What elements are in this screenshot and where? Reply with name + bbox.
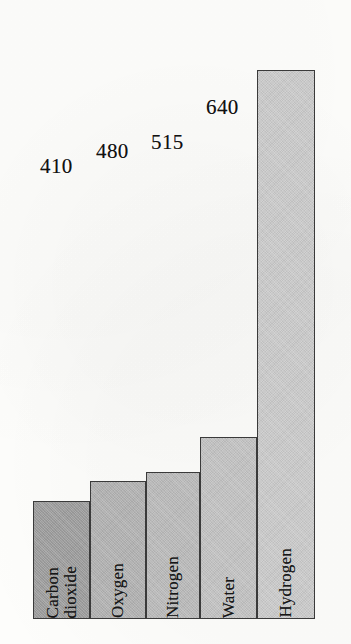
bar-value-label-oxygen: 480 (96, 141, 129, 162)
bar-value-label-nitrogen: 515 (151, 132, 184, 153)
chart-plot-area: 410 Carbon dioxide 480 Oxygen 515 Nitrog… (33, 62, 315, 619)
bar-category-label-nitrogen: Nitrogen (164, 547, 182, 618)
bar-oxygen[interactable]: Oxygen (90, 481, 146, 619)
bar-group-oxygen: 480 Oxygen (90, 62, 146, 619)
bar-group-carbon-dioxide: 410 Carbon dioxide (33, 62, 90, 619)
bar-group-hydrogen: 1930 Hydrogen (257, 62, 315, 619)
bar-carbon-dioxide[interactable]: Carbon dioxide (33, 501, 90, 619)
bar-category-label-water: Water (220, 568, 238, 618)
bar-hydrogen[interactable]: Hydrogen (257, 70, 315, 619)
bar-value-label-water: 640 (206, 97, 239, 118)
bar-value-label-carbon-dioxide: 410 (40, 156, 73, 177)
bar-category-label-hydrogen: Hydrogen (277, 539, 295, 618)
bar-nitrogen[interactable]: Nitrogen (146, 472, 200, 619)
bar-chart-figure: 410 Carbon dioxide 480 Oxygen 515 Nitrog… (0, 0, 351, 644)
bar-water[interactable]: Water (200, 437, 257, 619)
bar-category-label-oxygen: Oxygen (109, 554, 127, 618)
bar-group-water: 640 Water (200, 62, 257, 619)
bar-category-label-carbon-dioxide: Carbon dioxide (44, 557, 79, 618)
bar-group-nitrogen: 515 Nitrogen (146, 62, 200, 619)
